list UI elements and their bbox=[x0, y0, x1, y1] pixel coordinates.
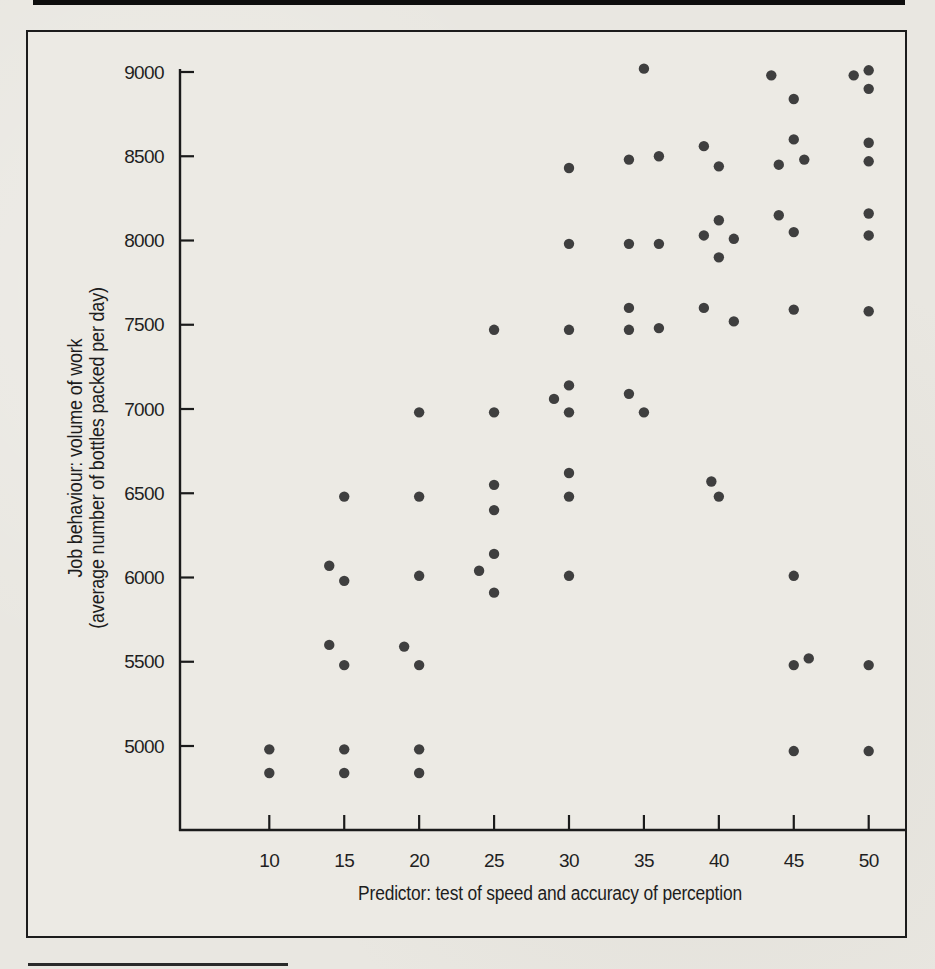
scanned-book-page: 5000550060006500700075008000850090001015… bbox=[0, 0, 935, 969]
y-axis-title: Job behaviour: volume of work (average n… bbox=[64, 269, 108, 647]
y-axis-title-line1: Job behaviour: volume of work bbox=[64, 269, 86, 647]
x-axis-title: Predictor: test of speed and accuracy of… bbox=[289, 882, 811, 905]
footnote-rule bbox=[28, 963, 288, 966]
figure-box bbox=[26, 30, 907, 938]
y-axis-title-line2: (average number of bottles packed per da… bbox=[86, 269, 108, 647]
page-top-rule bbox=[33, 0, 905, 5]
